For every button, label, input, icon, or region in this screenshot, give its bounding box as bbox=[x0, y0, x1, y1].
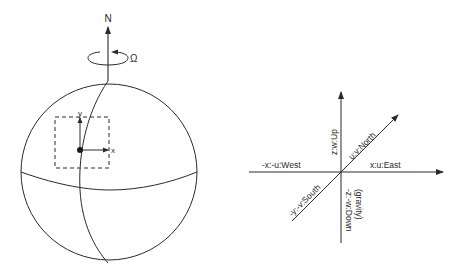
up-label: z:w:Up bbox=[329, 129, 339, 155]
local-x-label: x bbox=[111, 146, 115, 155]
north-pole-label: N bbox=[104, 13, 111, 24]
west-label: -x:-u:West bbox=[262, 160, 301, 170]
meridian-line bbox=[80, 81, 108, 263]
south-label: -y:-v:South bbox=[286, 182, 322, 218]
origin-point bbox=[77, 147, 83, 153]
omega-label: Ω bbox=[130, 53, 138, 64]
gravity-note: (gravity) bbox=[354, 189, 364, 220]
east-label: x:u:East bbox=[370, 160, 401, 170]
latitude-line bbox=[21, 172, 197, 190]
north-label: u:v:North bbox=[346, 130, 378, 162]
globe-diagram: N Ω y x bbox=[21, 13, 197, 263]
coordinate-frame-diagram: x:u:East -x:-u:West z:w:Up u:v:North -y:… bbox=[249, 92, 443, 243]
local-frame-box bbox=[55, 117, 109, 168]
down-label: -z:-w:Down bbox=[344, 189, 354, 232]
earth-sphere bbox=[21, 84, 197, 260]
local-y-label: y bbox=[78, 109, 82, 118]
